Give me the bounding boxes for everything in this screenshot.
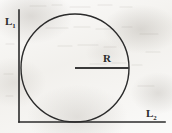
radius-label: R — [103, 53, 111, 64]
figure-canvas: L1 L2 R — [0, 0, 172, 133]
horizontal-axis-label: L2 — [146, 108, 157, 122]
vertical-axis-label: L1 — [5, 16, 16, 30]
vertical-axis-label-subscript: 1 — [12, 22, 15, 29]
horizontal-axis-label-subscript: 2 — [153, 114, 156, 121]
